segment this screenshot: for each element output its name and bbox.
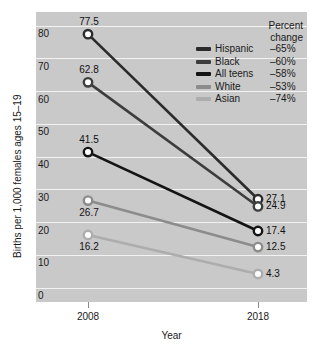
data-value-label: 16.2	[79, 242, 98, 252]
legend-percent-change: –53%	[270, 81, 304, 94]
data-value-label: 24.9	[266, 201, 285, 211]
data-value-label: 17.4	[266, 226, 285, 236]
data-point-marker	[84, 30, 92, 38]
legend-swatch-icon	[196, 97, 211, 101]
data-value-label: 12.5	[266, 242, 285, 252]
data-point-marker	[84, 231, 92, 239]
legend-percent-change: –74%	[270, 93, 304, 106]
legend-series-name: White	[215, 81, 270, 94]
legend-series-name: Black	[215, 56, 270, 69]
legend-series-name: Asian	[215, 93, 270, 106]
legend: Percent change Hispanic–65%Black–60%All …	[196, 20, 304, 106]
data-point-marker	[254, 227, 262, 235]
data-point-marker	[254, 202, 262, 210]
plot-area: 01020304050607080 77.527.162.824.941.517…	[36, 12, 307, 302]
data-point-marker	[254, 243, 262, 251]
legend-percent-change: –60%	[270, 56, 304, 69]
legend-series-name: All teens	[215, 68, 270, 81]
x-axis-tick-mark	[88, 302, 89, 308]
data-value-label: 41.5	[79, 135, 98, 145]
data-point-marker	[84, 148, 92, 156]
x-axis-title: Year	[36, 330, 307, 341]
data-value-label: 26.7	[79, 208, 98, 218]
data-point-marker	[84, 196, 92, 204]
legend-percent-change: –65%	[270, 43, 304, 56]
x-axis-tick-label: 2008	[58, 311, 118, 322]
legend-item-hispanic: Hispanic–65%	[196, 43, 304, 56]
legend-item-all-teens: All teens–58%	[196, 68, 304, 81]
chart-figure: Births per 1,000 females ages 15–19 0102…	[0, 0, 322, 350]
data-point-marker	[254, 270, 262, 278]
legend-percent-change: –58%	[270, 68, 304, 81]
data-value-label: 62.8	[79, 65, 98, 75]
legend-swatch-icon	[196, 85, 211, 89]
legend-rows: Hispanic–65%Black–60%All teens–58%White–…	[196, 43, 304, 106]
legend-item-white: White–53%	[196, 81, 304, 94]
legend-header-line2: change	[196, 32, 304, 44]
x-axis-tick-label: 2018	[228, 311, 288, 322]
x-axis-tick-mark	[258, 302, 259, 308]
legend-series-name: Hispanic	[215, 43, 270, 56]
series-line	[88, 152, 258, 231]
legend-item-black: Black–60%	[196, 56, 304, 69]
y-axis-title: Births per 1,000 females ages 15–19	[12, 95, 23, 258]
legend-swatch-icon	[196, 72, 211, 76]
legend-swatch-icon	[196, 47, 211, 51]
legend-item-asian: Asian–74%	[196, 93, 304, 106]
data-value-label: 4.3	[266, 269, 280, 279]
data-point-marker	[84, 78, 92, 86]
legend-header-line1: Percent	[196, 20, 304, 32]
data-value-label: 77.5	[79, 17, 98, 27]
legend-swatch-icon	[196, 60, 211, 64]
